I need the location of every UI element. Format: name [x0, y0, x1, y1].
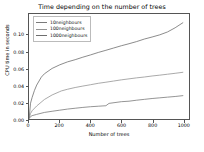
legend: 10neighbours100neighbours1000neighbours: [33, 16, 91, 42]
y-tick-label: 0.08: [13, 49, 24, 54]
y-tick-label: 0.10: [13, 32, 24, 37]
legend-item[interactable]: 100neighbours: [36, 26, 87, 32]
x-tick-label: 600: [117, 123, 126, 128]
series-line: [29, 96, 183, 119]
x-tick-label: 1000: [178, 123, 190, 128]
legend-item[interactable]: 10neighbours: [36, 20, 87, 26]
legend-item-label: 10neighbours: [50, 20, 82, 26]
legend-line-icon: [36, 35, 47, 36]
x-axis-label: Number of trees: [28, 131, 190, 137]
matplotlib-figure: Time depending on the number of trees 0.…: [0, 0, 204, 152]
y-tick-label: 0.00: [13, 118, 24, 123]
y-tick-label: 0.04: [13, 83, 24, 88]
y-tick-label: 0.02: [13, 100, 24, 105]
legend-line-icon: [36, 29, 47, 30]
x-tick-label: 200: [55, 123, 64, 128]
page-title: Time depending on the number of trees: [0, 3, 204, 10]
legend-item[interactable]: 1000neighbours: [36, 33, 87, 39]
legend-line-icon: [36, 22, 47, 23]
legend-item-label: 100neighbours: [50, 26, 85, 32]
y-tick-label: 0.06: [13, 66, 24, 71]
x-tick-label: 0: [26, 123, 29, 128]
legend-item-label: 1000neighbours: [50, 33, 87, 39]
x-tick-label: 400: [86, 123, 95, 128]
plot-area: 10neighbours100neighbours1000neighbours: [28, 13, 190, 120]
y-axis-label: CPU time in seconds: [4, 15, 10, 85]
x-tick-label: 800: [148, 123, 157, 128]
